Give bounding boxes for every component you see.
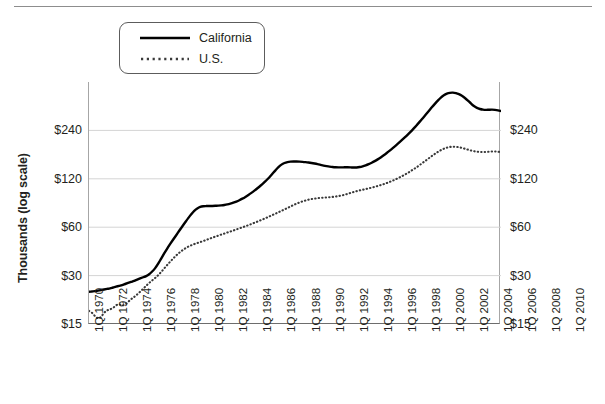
x-tick-label: 1Q 1984 (261, 288, 273, 332)
y-tick-label-right: $30 (510, 269, 566, 283)
y-tick-label-left: $60 (26, 220, 82, 234)
top-divider-rule (14, 6, 592, 7)
x-tick-label: 1Q 2004 (502, 288, 514, 332)
x-tick-label: 1Q 2008 (550, 288, 562, 332)
x-tick-label: 1Q 1976 (165, 288, 177, 332)
solid-line-swatch-icon (139, 27, 191, 49)
y-tick-label-right: $240 (510, 123, 566, 137)
x-tick-label: 1Q 1990 (334, 288, 346, 332)
y-tick-label-left: $30 (26, 269, 82, 283)
legend-item-us: U.S. (120, 48, 266, 70)
x-tick-label: 1Q 1978 (189, 288, 201, 332)
x-tick-label: 1Q 2002 (478, 288, 490, 332)
x-tick-label: 1Q 1998 (430, 288, 442, 332)
x-tick-label: 1Q 1970 (93, 288, 105, 332)
gridlines-group (89, 130, 501, 275)
x-tick-label: 1Q 1992 (358, 288, 370, 332)
x-tick-label: 1Q 1980 (213, 288, 225, 332)
legend-item-california: California (120, 27, 266, 49)
chart-legend: California U.S. (119, 22, 265, 74)
legend-label-us: U.S. (199, 48, 223, 70)
y-tick-label-left: $15 (26, 317, 82, 331)
legend-label-california: California (199, 27, 252, 49)
dotted-line-swatch-icon (139, 48, 191, 70)
x-tick-label: 1Q 2006 (526, 288, 538, 332)
x-tick-label: 1Q 1972 (117, 288, 129, 332)
chart-figure: Thousands (log scale) $240$120$60$30$15 … (0, 0, 605, 404)
y-tick-label-left: $240 (26, 123, 82, 137)
x-tick-label: 1Q 1988 (310, 288, 322, 332)
y-tick-label-right: $120 (510, 172, 566, 186)
x-tick-label: 1Q 1982 (237, 288, 249, 332)
x-tick-label: 1Q 1996 (406, 288, 418, 332)
x-tick-label: 1Q 2000 (454, 288, 466, 332)
x-tick-label: 1Q 2010 (574, 288, 586, 332)
y-tick-label-right: $60 (510, 220, 566, 234)
x-tick-label: 1Q 1974 (141, 288, 153, 332)
x-tick-label: 1Q 1986 (285, 288, 297, 332)
series-line-california (89, 93, 501, 292)
x-tick-label: 1Q 1994 (382, 288, 394, 332)
y-tick-label-left: $120 (26, 172, 82, 186)
y-axis-title: Thousands (log scale) (14, 118, 32, 318)
